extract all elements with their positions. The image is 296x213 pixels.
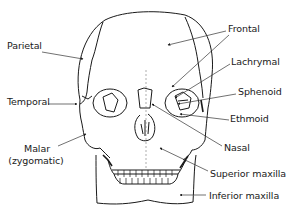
label-superior-maxilla: Superior maxilla [210, 168, 286, 179]
shading [103, 100, 203, 168]
label-zygomatic: (zygomatic) [6, 155, 66, 166]
label-frontal: Frontal [228, 23, 260, 34]
skull-outline [78, 12, 212, 204]
label-nasal: Nasal [224, 142, 250, 153]
label-temporal: Temporal [7, 96, 50, 107]
label-lachrymal: Lachrymal [231, 56, 280, 67]
label-parietal: Parietal [7, 40, 42, 51]
label-ethmoid: Ethmoid [230, 113, 269, 124]
label-malar: Malar [22, 143, 52, 154]
label-sphenoid: Sphenoid [238, 86, 282, 97]
label-inferior-maxilla: Inferior maxilla [209, 190, 279, 201]
